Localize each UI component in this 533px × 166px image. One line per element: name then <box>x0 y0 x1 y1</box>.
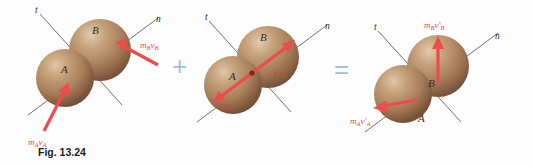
momentum-b-final-label: mBv′B <box>424 20 444 31</box>
sphere-a <box>36 49 94 107</box>
svg-text:mBv′B: mBv′B <box>424 20 444 31</box>
panel-after-impact: t n B A mBv′B <box>350 20 500 132</box>
contact-point-dot <box>249 70 254 75</box>
sphere-a-label: A <box>60 63 68 75</box>
n-axis-label: n <box>156 14 161 24</box>
sphere-a <box>204 56 262 114</box>
momentum-b-initial-label: mBvB <box>140 40 158 51</box>
sphere-b-label: B <box>92 24 99 36</box>
equals-operator: = <box>334 54 349 84</box>
panel-before-impact: t n A B mAvA <box>28 5 161 148</box>
figure-caption: Fig. 13.24 <box>38 146 86 158</box>
svg-text:mAv′A: mAv′A <box>350 116 370 127</box>
n-axis-label: n <box>325 21 330 31</box>
panel-impulses: t n A B −FΔt FΔt <box>197 12 330 122</box>
figure-canvas: t n A B mAvA <box>0 0 533 166</box>
impulse-on-b-label: −FΔt <box>268 70 287 80</box>
figure-container: t n A B mAvA <box>0 0 533 166</box>
momentum-a-final-label: mAv′A <box>350 116 370 127</box>
svg-text:mBvB: mBvB <box>140 40 158 51</box>
sphere-b-label: B <box>428 77 435 89</box>
plus-operator: + <box>172 51 187 81</box>
t-axis-label: t <box>374 22 377 32</box>
sphere-b-label: B <box>260 31 267 43</box>
impulse-on-a-label: FΔt <box>219 102 233 112</box>
sphere-a-label: A <box>228 70 236 82</box>
sphere-a-label: A <box>417 112 425 124</box>
t-axis-label: t <box>35 5 38 15</box>
n-axis-label: n <box>495 31 500 41</box>
t-axis-label: t <box>205 12 208 22</box>
